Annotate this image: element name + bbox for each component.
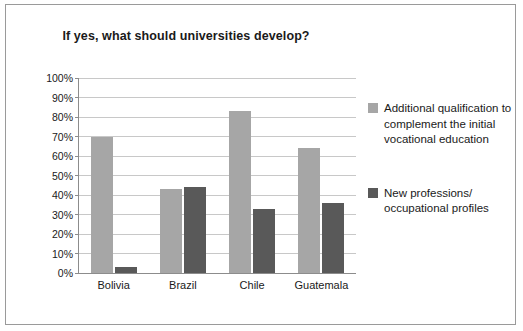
- y-axis-tick-label: 80%: [52, 111, 73, 123]
- y-axis-tick-label: 10%: [52, 248, 73, 260]
- legend-swatch-series-2: [368, 188, 378, 198]
- legend-label-series-2: New professions/ occupational profiles: [384, 186, 514, 217]
- bar: [115, 267, 137, 273]
- chart-legend: Additional qualification to complement t…: [368, 101, 514, 255]
- y-axis-tick-label: 70%: [52, 131, 73, 143]
- bar: [298, 148, 320, 273]
- bar: [91, 137, 113, 274]
- bar: [253, 209, 275, 273]
- y-axis-tick-label: 60%: [52, 150, 73, 162]
- bar-group: Bolivia: [79, 78, 148, 273]
- y-axis-tick-label: 90%: [52, 92, 73, 104]
- plot-area: 0%10%20%30%40%50%60%70%80%90%100%Bolivia…: [78, 78, 356, 274]
- legend-item: Additional qualification to complement t…: [368, 101, 514, 148]
- bar: [229, 111, 251, 273]
- legend-swatch-series-1: [368, 103, 378, 113]
- y-axis-tick-label: 30%: [52, 209, 73, 221]
- bar: [322, 203, 344, 273]
- chart-frame: If yes, what should universities develop…: [5, 4, 516, 325]
- bar-group: Guatemala: [287, 78, 356, 273]
- legend-item: New professions/ occupational profiles: [368, 186, 514, 217]
- bar: [160, 189, 182, 273]
- y-axis-tick-label: 0%: [58, 267, 73, 279]
- chart-title: If yes, what should universities develop…: [6, 29, 366, 43]
- bar: [184, 187, 206, 273]
- bar-group: Chile: [218, 78, 287, 273]
- legend-label-series-1: Additional qualification to complement t…: [384, 101, 514, 148]
- x-axis-tick-label: Guatemala: [287, 279, 356, 291]
- x-axis-tick-label: Brazil: [148, 279, 217, 291]
- x-axis-tick-label: Bolivia: [79, 279, 148, 291]
- y-axis-tick-label: 100%: [46, 72, 73, 84]
- bar-group: Brazil: [148, 78, 217, 273]
- y-axis-tick-label: 40%: [52, 189, 73, 201]
- y-axis-tick-label: 20%: [52, 228, 73, 240]
- y-axis-tick-label: 50%: [52, 170, 73, 182]
- x-axis-tick-label: Chile: [218, 279, 287, 291]
